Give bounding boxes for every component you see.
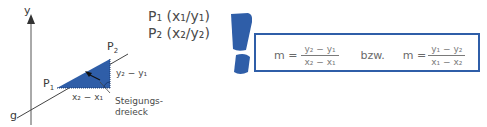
point1-label: P1 xyxy=(43,78,54,92)
point2-coords: P₂ (x₂/y₂) xyxy=(148,25,210,42)
slope-diagram: y g P1 P2 y₂ − y₁ x₂ − x₁ Steigungs- dre… xyxy=(0,0,487,127)
dx-label: x₂ − x₁ xyxy=(72,93,103,102)
formula1-numerator: y₂ − y₁ xyxy=(301,44,338,56)
formula2-denominator: x₁ − x₂ xyxy=(428,56,465,67)
dy-label: y₂ − y₁ xyxy=(116,69,147,78)
slope-triangle xyxy=(57,59,110,88)
formula1-fraction: y₂ − y₁ x₂ − x₁ xyxy=(301,44,338,67)
y-axis-label: y xyxy=(24,5,31,16)
formula-row: m = y₂ − y₁ x₂ − x₁ bzw. m = y₁ − y₂ x₁ … xyxy=(256,44,478,67)
exclamation-dot-icon xyxy=(234,54,250,74)
formula1-denominator: x₂ − x₁ xyxy=(301,56,338,67)
triangle-label-line2: dreieck xyxy=(115,108,148,117)
formula2-fraction: y₁ − y₂ x₁ − x₂ xyxy=(428,44,465,67)
point2-label: P2 xyxy=(107,41,118,55)
formula2-numerator: y₁ − y₂ xyxy=(428,44,465,56)
line-g-label: g xyxy=(10,110,17,121)
formula1-lhs: m = xyxy=(274,49,297,62)
formula-connector: bzw. xyxy=(361,49,385,62)
formula2-lhs: m = xyxy=(403,49,426,62)
triangle-label-line1: Steigungs- xyxy=(115,97,163,106)
point1-coords: P₁ (x₁/y₁) xyxy=(148,8,210,25)
exclamation-mark-icon xyxy=(231,13,252,51)
slope-formula-box: m = y₂ − y₁ x₂ − x₁ bzw. m = y₁ − y₂ x₁ … xyxy=(254,33,480,72)
points-definition: P₁ (x₁/y₁) P₂ (x₂/y₂) xyxy=(148,8,210,42)
